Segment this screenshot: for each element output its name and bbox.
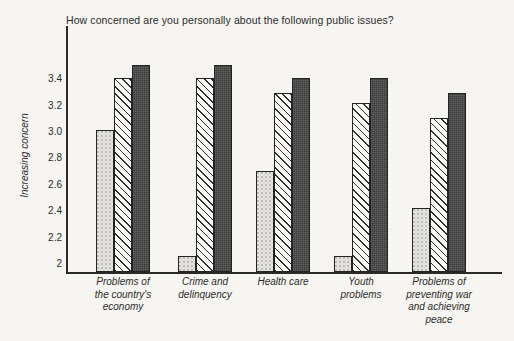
bar: [352, 103, 370, 272]
y-tick-label: 2.2: [28, 231, 62, 242]
x-category-label-line: delinquency: [145, 289, 265, 302]
y-tick-label: 2.8: [28, 152, 62, 163]
x-category-label-line: peace: [379, 314, 499, 327]
y-tick-label: 3.2: [28, 99, 62, 110]
bar: [412, 208, 430, 272]
bar: [274, 93, 292, 272]
x-category-label-line: economy: [63, 301, 183, 314]
x-category-label: Problems ofpreventing warand achievingpe…: [379, 276, 499, 326]
y-tick-label: 3.4: [28, 73, 62, 84]
bar-chart: How concerned are you personally about t…: [0, 0, 514, 341]
bar: [214, 65, 232, 272]
y-tick-label: 2: [28, 258, 62, 269]
bar: [430, 118, 448, 272]
x-category-label-line: Problems of: [379, 276, 499, 289]
y-tick-label: 2.4: [28, 205, 62, 216]
bar: [178, 256, 196, 272]
bar: [370, 78, 388, 272]
y-axis-tick-labels: 22.22.42.62.83.03.23.4: [22, 0, 62, 341]
x-category-label-line: preventing war: [379, 289, 499, 302]
y-tick-label: 3.0: [28, 126, 62, 137]
bar: [132, 65, 150, 272]
bar: [448, 93, 466, 272]
bar: [334, 256, 352, 272]
bar: [292, 78, 310, 272]
bar: [196, 78, 214, 272]
x-category-label-line: and achieving: [379, 301, 499, 314]
chart-page: How concerned are you personally about t…: [0, 0, 514, 341]
bar: [114, 78, 132, 272]
bar: [96, 130, 114, 272]
bar: [256, 171, 274, 272]
y-tick-label: 2.6: [28, 178, 62, 189]
